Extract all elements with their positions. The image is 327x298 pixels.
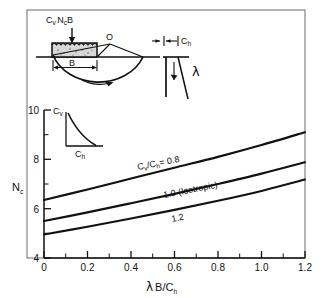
y-tick-label-4: 4 xyxy=(33,253,39,264)
x-axis-title: λB/Ch xyxy=(146,280,177,295)
footing-block xyxy=(52,43,97,57)
x-tick-label-08: 0.8 xyxy=(211,262,225,273)
x-tick-label-0: 0 xyxy=(41,262,47,273)
x-tick-label-12: 1.2 xyxy=(298,262,312,273)
point-o-label: O xyxy=(106,32,113,42)
x-tick-label-02: 0.2 xyxy=(81,262,95,273)
y-tick-label-8: 8 xyxy=(33,154,39,165)
figure-canvas: CvNcB O B xyxy=(0,0,327,298)
lambda-symbol: λ xyxy=(192,64,200,79)
b-width-label: B xyxy=(69,58,75,68)
x-tick-label-04: 0.4 xyxy=(124,262,138,273)
x-tick-label-10: 1.0 xyxy=(255,262,269,273)
y-tick-label-6: 6 xyxy=(33,204,39,215)
x-tick-label-06: 0.6 xyxy=(168,262,182,273)
y-tick-label-10: 10 xyxy=(28,105,40,116)
load-label: CvNcB xyxy=(46,15,73,26)
